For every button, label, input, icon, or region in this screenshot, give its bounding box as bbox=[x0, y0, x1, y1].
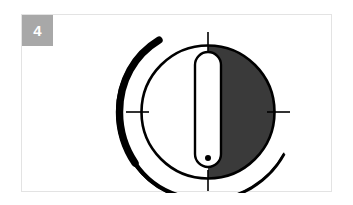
dial-pointer bbox=[195, 52, 221, 167]
control-dial-illustration bbox=[22, 15, 333, 193]
dial-svg bbox=[22, 15, 333, 193]
figure-number-label: 4 bbox=[33, 23, 41, 38]
pointer-indicator-dot-icon bbox=[205, 155, 211, 161]
figure-number-badge: 4 bbox=[22, 15, 53, 46]
figure-card: 4 bbox=[21, 14, 332, 192]
